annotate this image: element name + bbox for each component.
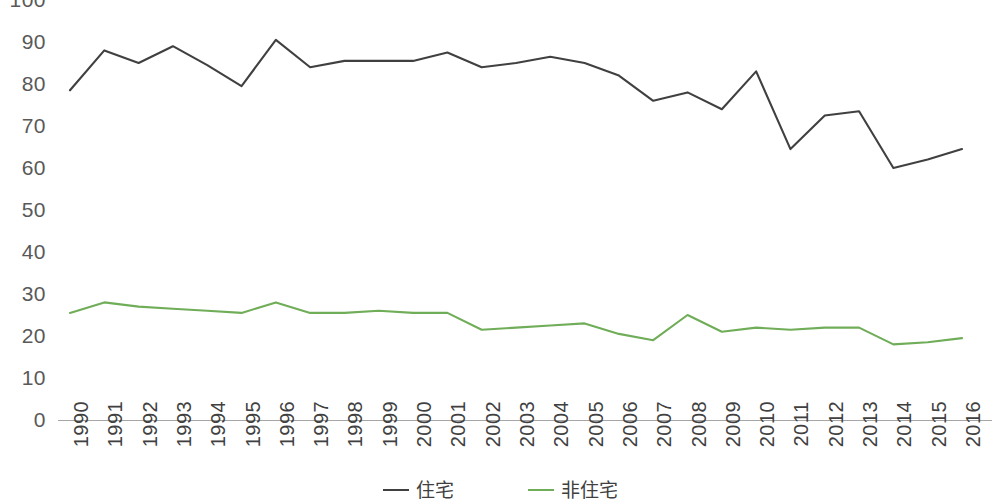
x-tick-label: 2014: [893, 401, 916, 448]
x-tick-label: 2003: [516, 401, 539, 448]
x-tick-label: 2004: [550, 401, 573, 448]
x-tick-label: 2012: [825, 401, 848, 448]
y-tick-label: 100: [9, 0, 46, 12]
y-tick-label: 0: [34, 408, 46, 432]
y-tick-label: 50: [22, 198, 46, 222]
x-tick-label: 1990: [70, 401, 93, 448]
x-tick-label: 2011: [790, 401, 813, 446]
legend-label-nonresidential: 非住宅: [561, 481, 618, 500]
y-axis: 0102030405060708090100: [0, 0, 46, 440]
x-tick-label: 2006: [619, 401, 642, 448]
plot-area: [58, 0, 992, 420]
x-tick-label: 1992: [139, 401, 162, 448]
y-tick-label: 60: [22, 156, 46, 180]
x-tick-label: 2001: [447, 401, 470, 448]
y-tick-label: 80: [22, 72, 46, 96]
legend-item-residential[interactable]: 住宅: [383, 481, 454, 500]
x-tick-label: 1999: [379, 401, 402, 448]
x-tick-label: 1997: [310, 401, 333, 448]
y-tick-label: 20: [22, 324, 46, 348]
x-tick-label: 1993: [173, 401, 196, 448]
x-axis: 1990199119921993199419951996199719981999…: [58, 424, 992, 484]
x-tick-label: 1995: [242, 401, 265, 448]
x-tick-label: 2016: [962, 401, 985, 448]
x-tick-label: 2008: [688, 401, 711, 448]
x-tick-label: 2007: [653, 401, 676, 448]
legend-item-nonresidential[interactable]: 非住宅: [528, 481, 618, 500]
x-tick-label: 1996: [276, 401, 299, 448]
x-tick-label: 1994: [207, 401, 230, 448]
y-tick-label: 30: [22, 282, 46, 306]
series-canvas: [58, 0, 992, 420]
legend-line-swatch-nonresidential: [528, 489, 554, 491]
x-tick-label: 2013: [859, 401, 882, 448]
legend: 住宅 非住宅: [0, 478, 1000, 502]
x-tick-label: 2005: [585, 401, 608, 448]
series-line-nonresidential: [70, 302, 962, 344]
y-tick-label: 90: [22, 30, 46, 54]
y-tick-label: 70: [22, 114, 46, 138]
x-tick-label: 2002: [482, 401, 505, 448]
legend-label-residential: 住宅: [416, 481, 454, 500]
y-tick-label: 40: [22, 240, 46, 264]
line-chart: 0102030405060708090100 19901991199219931…: [0, 0, 1000, 502]
x-tick-label: 2009: [722, 401, 745, 448]
y-tick-label: 10: [22, 366, 46, 390]
series-line-residential: [70, 40, 962, 168]
x-tick-label: 1991: [104, 401, 127, 448]
x-tick-label: 2000: [413, 401, 436, 448]
legend-line-swatch-residential: [383, 489, 409, 491]
x-tick-label: 1998: [344, 401, 367, 448]
x-tick-label: 2010: [756, 401, 779, 448]
x-tick-label: 2015: [928, 401, 951, 448]
